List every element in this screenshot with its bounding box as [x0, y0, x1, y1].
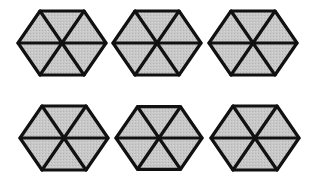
hexagon-r1-c3	[209, 11, 297, 75]
hexagon-figure	[0, 0, 316, 176]
hexagon-r2-c2	[116, 107, 202, 170]
hexagon-r1-c2	[113, 11, 201, 75]
hexagon-r2-c1	[20, 106, 108, 170]
hexagon-r1-c1	[18, 11, 106, 75]
hexagon-r2-c3	[211, 106, 299, 170]
